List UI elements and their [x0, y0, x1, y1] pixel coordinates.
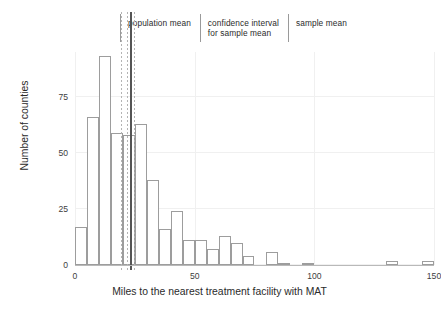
legend-item-sample-mean: sample mean	[288, 14, 356, 42]
x-tick-label: 150	[427, 271, 441, 281]
histogram-bar	[99, 56, 111, 265]
y-tick-label: 75	[58, 92, 68, 102]
histogram-bar	[195, 240, 207, 265]
histogram-bar	[231, 243, 243, 265]
x-axis-line	[75, 265, 434, 266]
x-tick-label: 50	[190, 271, 200, 281]
histogram-bar	[159, 229, 171, 265]
histogram-bar	[135, 124, 147, 265]
legend-item-confidence-interval: confidence interval for sample mean	[200, 14, 288, 42]
y-axis-label: Number of counties	[19, 26, 30, 226]
histogram-bar	[147, 180, 159, 265]
histogram-bar	[207, 249, 219, 265]
y-tick-label: 0	[63, 260, 68, 270]
chart-legend: population mean confidence interval for …	[120, 14, 356, 44]
y-tick-label: 25	[58, 204, 68, 214]
x-tick-label: 100	[307, 271, 321, 281]
reference-line-population-mean	[121, 12, 122, 270]
histogram-bar	[75, 227, 87, 265]
reference-line-confidence-interval-upper	[134, 12, 135, 270]
gridline-horizontal	[75, 96, 434, 97]
gridline-vertical	[314, 52, 315, 265]
histogram-bar	[266, 252, 278, 265]
histogram-bar	[219, 236, 231, 265]
reference-line-confidence-interval-lower	[127, 12, 128, 270]
legend-label-confidence-interval: confidence interval for sample mean	[208, 14, 279, 38]
plot-area	[75, 52, 434, 265]
legend-label-sample-mean: sample mean	[296, 14, 347, 28]
histogram-bar	[171, 211, 183, 265]
x-tick-label: 0	[73, 271, 78, 281]
histogram-bar	[183, 240, 195, 265]
reference-line-sample-mean	[130, 12, 132, 270]
gridline-vertical	[195, 52, 196, 265]
y-tick-label: 50	[58, 148, 68, 158]
y-axis-ticks: 0255075	[0, 0, 68, 319]
gridline-vertical	[434, 52, 435, 265]
histogram-bar	[87, 117, 99, 265]
histogram-bar	[243, 256, 255, 265]
x-axis-label: Miles to the nearest treatment facility …	[0, 286, 439, 297]
legend-label-population-mean: population mean	[128, 14, 191, 28]
